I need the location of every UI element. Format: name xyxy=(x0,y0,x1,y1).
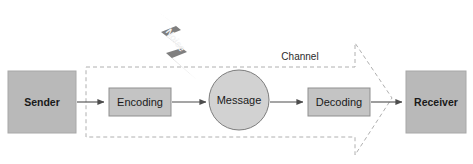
node-decoding: Decoding xyxy=(308,88,370,116)
receiver-label: Receiver xyxy=(414,96,458,108)
node-message: Message xyxy=(209,70,269,130)
sender-label: Sender xyxy=(24,96,60,108)
communication-model-diagram: Channel Sender Encoding Message Decoding xyxy=(0,0,473,164)
node-sender: Sender xyxy=(8,71,76,133)
noise-label: Noise xyxy=(164,26,188,53)
message-label: Message xyxy=(217,94,262,106)
decoding-label: Decoding xyxy=(316,96,362,108)
node-encoding: Encoding xyxy=(109,88,171,116)
node-receiver: Receiver xyxy=(406,71,466,133)
noise-bolt: Noise xyxy=(155,9,197,80)
diagram-canvas: Channel Sender Encoding Message Decoding xyxy=(0,0,473,164)
encoding-label: Encoding xyxy=(117,96,163,108)
channel-label: Channel xyxy=(281,51,318,62)
